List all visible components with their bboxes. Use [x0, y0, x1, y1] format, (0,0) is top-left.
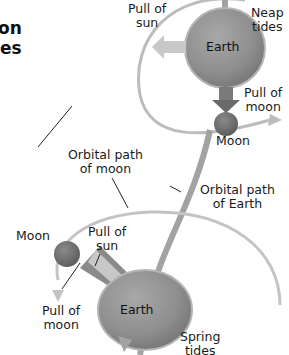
neap-pull-of-moon-label: Pull of moon [244, 86, 282, 114]
moon-spring [54, 241, 80, 267]
title-line-1: on [0, 18, 22, 38]
orbital-path-moon-label: Orbital path of moon [68, 148, 143, 176]
orbit-arrowhead-spring [52, 290, 64, 302]
neap-moon-label: Moon [216, 134, 250, 148]
spring-moon-label: Moon [16, 229, 50, 243]
tides-diagram: on es Pull of sun Neap tides Earth Pull … [0, 0, 289, 355]
spring-earth-label: Earth [120, 303, 154, 317]
neap-earth-label: Earth [206, 40, 240, 54]
spring-tides-heading: Spring tides [180, 330, 220, 355]
orbit-arrowhead-neap [268, 114, 282, 126]
neap-pull-of-sun-label: Pull of sun [128, 2, 166, 30]
spring-pull-of-sun-label: Pull of sun [88, 225, 126, 253]
title-line-2: es [0, 38, 22, 58]
spring-pull-of-moon-label: Pull of moon [42, 304, 80, 332]
orbital-path-earth-label: Orbital path of Earth [200, 183, 275, 211]
neap-tides-heading: Neap tides [251, 6, 284, 34]
